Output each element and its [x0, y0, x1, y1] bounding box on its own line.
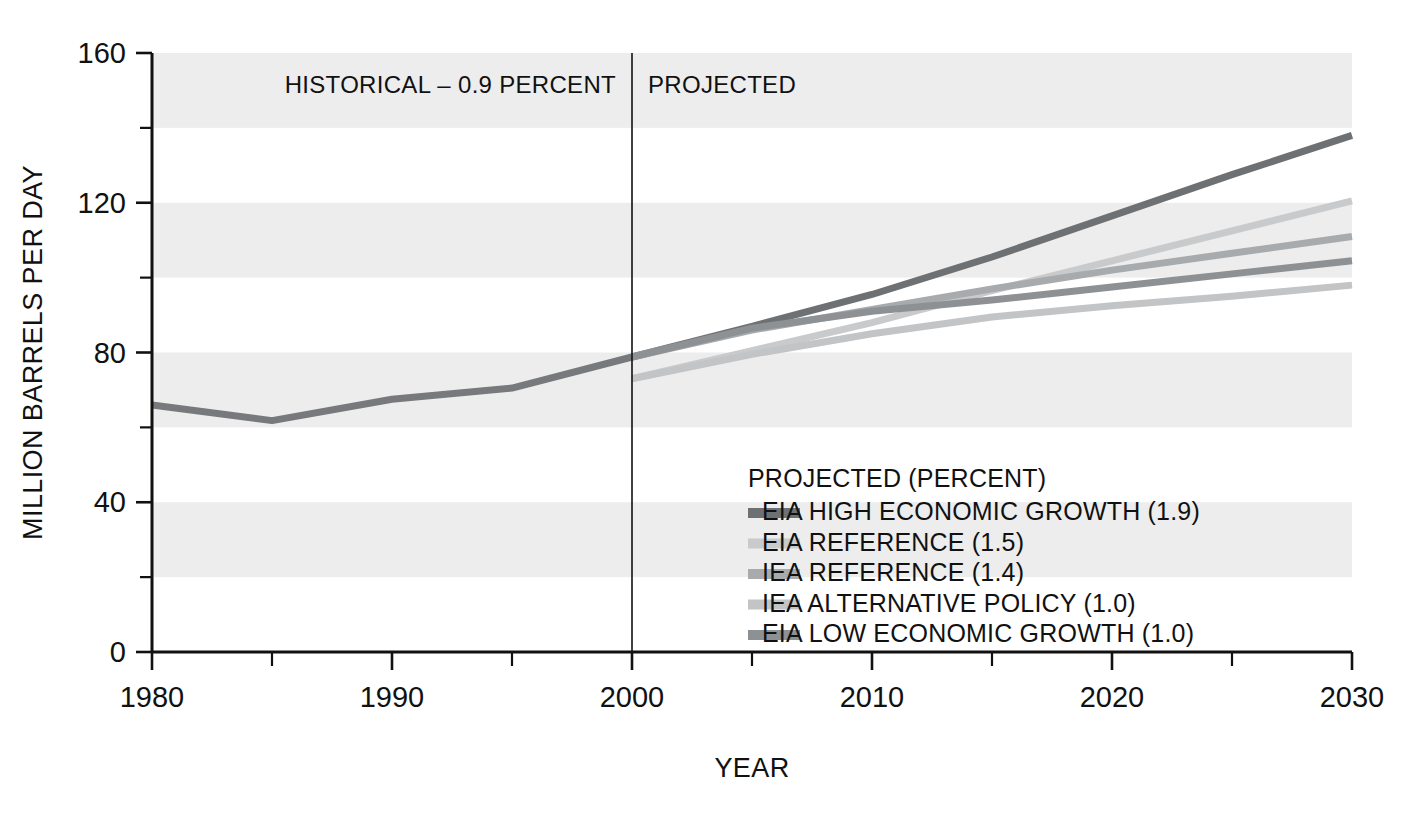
legend-title: PROJECTED (PERCENT)	[748, 464, 1046, 492]
grid-band	[152, 353, 1352, 428]
y-tick-label: 0	[110, 636, 126, 668]
legend-item-label: EIA REFERENCE (1.5)	[762, 528, 1024, 556]
y-tick-label: 80	[94, 337, 126, 369]
x-tick-label: 1990	[360, 681, 425, 713]
legend-item-label: IEA ALTERNATIVE POLICY (1.0)	[762, 589, 1136, 617]
projected-period-label: PROJECTED	[648, 71, 796, 98]
x-tick-label: 2010	[840, 681, 905, 713]
x-tick-label: 2000	[600, 681, 665, 713]
y-tick-label: 120	[78, 187, 126, 219]
x-axis-title: YEAR	[714, 753, 789, 783]
legend-item-label: IEA REFERENCE (1.4)	[762, 558, 1024, 586]
x-tick-label: 1980	[120, 681, 185, 713]
legend-item-label: EIA HIGH ECONOMIC GROWTH (1.9)	[762, 497, 1200, 525]
legend-item-label: EIA LOW ECONOMIC GROWTH (1.0)	[762, 619, 1194, 647]
y-axis-title: MILLION BARRELS PER DAY	[18, 165, 48, 540]
y-tick-label: 160	[78, 37, 126, 69]
grid-band	[152, 203, 1352, 278]
historical-period-label: HISTORICAL – 0.9 PERCENT	[285, 71, 616, 98]
y-tick-label: 40	[94, 486, 126, 518]
line-chart-svg: 04080120160198019902000201020202030 HIST…	[0, 0, 1402, 823]
x-tick-label: 2020	[1080, 681, 1145, 713]
x-tick-label: 2030	[1320, 681, 1385, 713]
chart-figure: 04080120160198019902000201020202030 HIST…	[0, 0, 1402, 823]
